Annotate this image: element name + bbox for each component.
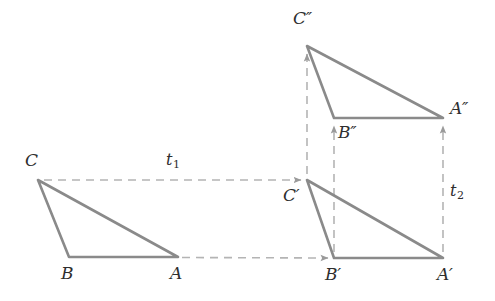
translation-vector-group-t2: [307, 54, 443, 252]
triangle-original: [38, 180, 178, 257]
vertex-label-A-double-prime: A″: [450, 100, 468, 117]
vertex-label-C-double-prime: C″: [293, 10, 312, 27]
translation-label-t1-subscript: 1: [172, 158, 180, 171]
t1-arrow-from-A: [182, 258, 328, 259]
triangle-image-1: [307, 180, 443, 258]
vertex-label-C-prime: C′: [283, 187, 299, 204]
translation-label-t2-subscript: 2: [456, 189, 464, 202]
diagram-canvas: [0, 0, 495, 301]
vertex-label-B-prime: B′: [325, 266, 341, 283]
vertex-label-A-prime: A′: [437, 266, 453, 283]
translation-label-t1: t1: [166, 152, 180, 170]
vertex-label-A: A: [170, 265, 182, 282]
vertex-label-C: C: [25, 152, 38, 169]
vertex-label-B: B: [61, 265, 74, 282]
vertex-label-B-double-prime: B″: [338, 124, 356, 141]
geometry-diagram: C B A C′ B′ A′ C″ B″ A″ t1 t2: [0, 0, 495, 301]
triangle-image-2: [307, 46, 443, 118]
translation-label-t2: t2: [450, 183, 464, 201]
